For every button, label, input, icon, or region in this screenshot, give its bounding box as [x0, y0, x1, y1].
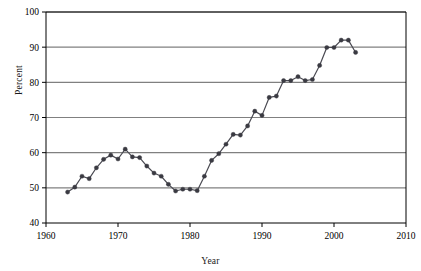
- data-point: [325, 45, 329, 49]
- data-point: [80, 174, 84, 178]
- x-axis-title-label: Year: [201, 256, 219, 266]
- data-point: [217, 152, 221, 156]
- data-point: [310, 77, 314, 81]
- data-point: [296, 75, 300, 79]
- data-point: [253, 109, 257, 113]
- y-tick-label: 70: [30, 113, 40, 123]
- x-tick-label: 1970: [109, 231, 128, 241]
- x-tick-label: 1980: [181, 231, 200, 241]
- data-point: [87, 177, 91, 181]
- y-tick-label: 50: [30, 183, 40, 193]
- data-point: [346, 38, 350, 42]
- data-point: [282, 78, 286, 82]
- data-point: [231, 132, 235, 136]
- line-chart-plot: 405060708090100 196019701980199020002010: [0, 0, 421, 271]
- data-point: [188, 187, 192, 191]
- gridlines-group: [46, 12, 406, 188]
- data-point: [109, 153, 113, 157]
- y-tick-label: 80: [30, 78, 40, 88]
- series-polyline: [68, 40, 356, 192]
- x-tick-label: 1960: [37, 231, 56, 241]
- x-tick-label: 1990: [253, 231, 272, 241]
- data-series-markers: [66, 38, 358, 194]
- data-point: [289, 78, 293, 82]
- x-tick-label: 2010: [397, 231, 416, 241]
- data-series-line: [68, 40, 356, 192]
- x-axis-title: Year: [0, 250, 421, 268]
- data-point: [73, 185, 77, 189]
- data-point: [210, 158, 214, 162]
- data-point: [303, 78, 307, 82]
- y-axis-title-label: Percent: [14, 65, 24, 95]
- y-tick-label: 100: [25, 7, 40, 17]
- data-point: [202, 174, 206, 178]
- data-point: [159, 174, 163, 178]
- data-point: [166, 182, 170, 186]
- data-point: [195, 189, 199, 193]
- data-point: [66, 190, 70, 194]
- data-point: [318, 63, 322, 67]
- data-point: [181, 187, 185, 191]
- data-point: [332, 45, 336, 49]
- data-point: [145, 164, 149, 168]
- data-point: [260, 113, 264, 117]
- y-tick-label: 90: [30, 43, 40, 53]
- x-tick-label: 2000: [325, 231, 344, 241]
- data-point: [152, 171, 156, 175]
- data-point: [246, 124, 250, 128]
- data-point: [130, 155, 134, 159]
- data-point: [354, 50, 358, 54]
- data-point: [94, 166, 98, 170]
- x-axis-ticks-group: 196019701980199020002010: [37, 223, 416, 241]
- data-point: [174, 189, 178, 193]
- data-point: [267, 95, 271, 99]
- data-point: [123, 147, 127, 151]
- chart-container: 405060708090100 196019701980199020002010…: [0, 0, 421, 271]
- data-point: [116, 157, 120, 161]
- y-tick-label: 60: [30, 148, 40, 158]
- data-point: [138, 155, 142, 159]
- data-point: [224, 142, 228, 146]
- data-point: [274, 94, 278, 98]
- data-point: [102, 157, 106, 161]
- data-point: [238, 133, 242, 137]
- y-tick-label: 40: [30, 218, 40, 228]
- y-axis-title: Percent: [8, 40, 28, 120]
- data-point: [339, 38, 343, 42]
